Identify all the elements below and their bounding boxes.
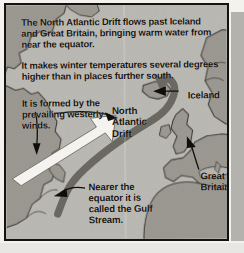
label-great-britain: Great Britain <box>200 170 229 193</box>
page-gutter-right <box>231 12 244 241</box>
figure-root: The North Atlantic Drift flows past Icel… <box>0 0 244 253</box>
caption-intro: The North Atlantic Drift flows past Icel… <box>21 16 220 82</box>
label-iceland: Iceland <box>188 89 220 100</box>
caption-gulf-stream: Nearer the equator it is called the Gulf… <box>88 181 166 226</box>
caption-intro-paragraph-1: The North Atlantic Drift flows past Icel… <box>21 16 219 50</box>
label-north-atlantic-drift: North Atlantic Drift <box>112 105 158 139</box>
map-panel-frame: The North Atlantic Drift flows past Icel… <box>4 3 229 241</box>
page-gutter-bottom <box>0 243 244 253</box>
caption-westerly-winds: It is formed by the prevailing westerly … <box>22 98 114 131</box>
caption-intro-paragraph-2: It makes winter temperatures several deg… <box>22 59 220 82</box>
